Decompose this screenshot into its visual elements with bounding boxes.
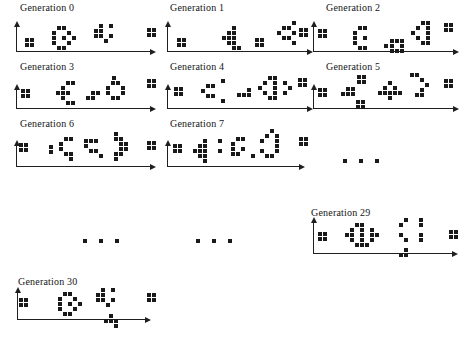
pixel-cell [101,298,105,302]
generation-1-block-right-sprite [299,28,309,38]
pixel-cell [112,76,116,80]
pixel-cell [24,298,28,302]
pixel-cell [273,91,277,95]
generation-30-label: Generation 30 [18,276,78,287]
pixel-cell [304,137,308,141]
pixel-cell [400,39,404,43]
pixel-cell [361,100,365,104]
pixel-cell [282,26,286,30]
pixel-cell [454,235,458,239]
generation-7-y-axis-arrow-icon [165,140,171,146]
pixel-cell [116,96,120,100]
generation-5-y-axis-arrow-icon [311,84,317,90]
pixel-cell [152,84,156,88]
pixel-cell [26,94,30,98]
pixel-cell [346,92,350,96]
pixel-cell [318,237,322,241]
pixel-cell [206,84,210,88]
generation-1-y-axis-arrow-icon [165,21,171,27]
generation-29-eye-creature-sprite [345,223,380,248]
pixel-cell [350,238,354,242]
pixel-cell [390,44,394,48]
pixel-cell [232,26,236,30]
pixel-cell [49,150,53,154]
generation-6-x-axis [16,166,152,167]
pixel-cell [421,21,425,25]
pixel-cell [288,86,292,90]
pixel-cell [323,237,327,241]
pixel-cell [370,238,374,242]
pixel-cell [388,81,392,85]
generation-29-block-left-sprite [318,232,328,242]
pixel-cell [119,152,123,156]
pixel-cell [270,129,274,133]
pixel-cell [273,96,277,100]
pixel-cell [370,233,374,237]
pixel-cell [57,26,61,30]
pixel-cell [232,46,236,50]
pixel-cell [57,46,61,50]
generation-3-a-blob-sprite [86,91,101,101]
pixel-cell [360,228,364,232]
generation-3-y-axis [16,88,17,108]
pixel-cell [71,81,75,85]
pixel-cell [25,38,29,42]
generation-2-triangle-creature-sprite [411,21,431,46]
generation-7-dot-sprite [251,154,256,159]
pixel-cell [206,94,210,98]
generation-29-bracket-creature-sprite [399,218,424,243]
generation-7-y-axis [167,144,168,166]
pixel-cell [198,149,202,153]
pixel-cell [357,75,361,79]
pixel-cell [283,81,287,85]
pixel-cell [449,79,453,83]
pixel-cell [241,147,245,151]
pixel-cell [86,96,90,100]
pixel-cell [99,34,103,38]
pixel-cell [179,87,183,91]
generation-0-block-right-sprite [147,28,157,38]
pixel-cell [66,101,70,105]
pixel-cell [147,33,151,37]
pixel-cell [78,302,82,306]
pixel-cell [299,28,303,32]
pixel-cell [237,93,241,97]
pixel-cell [350,233,354,237]
pixel-cell [356,105,360,109]
pixel-cell [390,49,394,53]
generation-29-block-right-sprite [449,230,459,240]
pixel-cell [173,149,177,153]
pixel-cell [383,86,387,90]
pixel-cell [111,288,115,292]
generation-3-x-axis [16,108,152,109]
pixel-cell [124,147,128,151]
generation-30-y-axis-arrow-icon [15,287,21,293]
pixel-cell [419,238,423,242]
pixel-cell [351,92,355,96]
pixel-cell [416,26,420,30]
generation-3-label: Generation 3 [20,61,74,72]
pixel-cell [203,159,207,163]
generation-0-label: Generation 0 [20,2,74,13]
generation-3-arrow-left-creature-sprite [56,81,76,106]
generation-2-o-creature-sprite [390,39,405,54]
pixel-cell [104,39,108,43]
generation-30-block-left-sprite [19,298,29,308]
pixel-cell [152,33,156,37]
generation-4-eye-creature-sprite [258,76,293,101]
pixel-cell [275,149,279,153]
evolution-generations-figure: Generation 0Generation 1Generation 2Gene… [0,0,465,344]
pixel-cell [147,79,151,83]
pixel-cell [299,142,303,146]
pixel-cell [360,243,364,247]
generation-4-block-right-sprite [298,78,308,88]
generation-6-block-left-sprite [19,143,29,153]
pixel-cell [236,152,240,156]
pixel-cell [304,28,308,32]
pixel-cell [68,292,72,296]
pixel-cell [121,86,125,90]
ellipsis-row4-mid-sprite [196,239,236,247]
pixel-cell [152,79,156,83]
pixel-cell [114,137,118,141]
pixel-cell [109,314,113,318]
